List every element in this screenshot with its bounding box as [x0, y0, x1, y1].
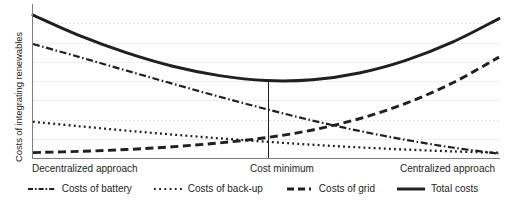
series-line-total-costs [33, 15, 499, 81]
series-group [33, 15, 499, 154]
chart-legend: Costs of battery Costs of back-up Costs … [0, 180, 506, 198]
legend-swatch-dash-dot-icon [28, 184, 56, 194]
chart-figure: Costs of integrating renewables Decentra… [0, 0, 506, 201]
y-axis-title-container: Costs of integrating renewables [0, 0, 18, 165]
legend-item-costs-of-back-up: Costs of back-up [154, 183, 263, 195]
x-axis-label-cost-minimum: Cost minimum [250, 162, 314, 175]
legend-item-total-costs: Total costs [397, 183, 478, 195]
x-axis-label-centralized: Centralized approach [400, 162, 495, 175]
series-line-costs-of-battery [33, 44, 499, 154]
chart-svg [18, 0, 506, 165]
legend-item-costs-of-battery: Costs of battery [28, 183, 132, 195]
legend-swatch-dashed-icon [285, 184, 313, 194]
plot-area [18, 0, 506, 165]
legend-label-costs-of-grid: Costs of grid [319, 183, 375, 195]
legend-label-costs-of-back-up: Costs of back-up [188, 183, 263, 195]
x-axis-labels: Decentralized approach Cost minimum Cent… [18, 162, 506, 178]
x-axis-label-decentralized: Decentralized approach [32, 162, 138, 175]
series-line-costs-of-grid [33, 57, 499, 152]
series-line-costs-of-back-up [33, 122, 499, 153]
legend-swatch-dotted-icon [154, 184, 182, 194]
legend-swatch-solid-icon [397, 184, 425, 194]
legend-label-costs-of-battery: Costs of battery [62, 183, 132, 195]
legend-item-costs-of-grid: Costs of grid [285, 183, 375, 195]
legend-label-total-costs: Total costs [431, 183, 478, 195]
